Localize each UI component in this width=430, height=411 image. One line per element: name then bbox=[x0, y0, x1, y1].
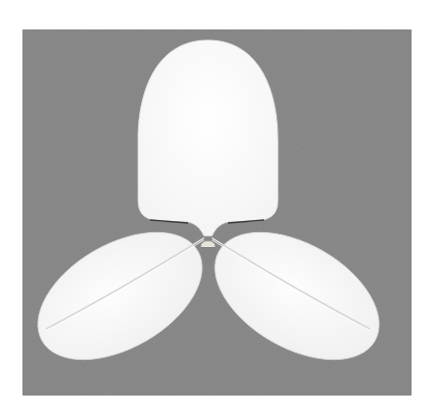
top-leaflet bbox=[138, 40, 278, 236]
leaf-photo bbox=[0, 0, 430, 411]
